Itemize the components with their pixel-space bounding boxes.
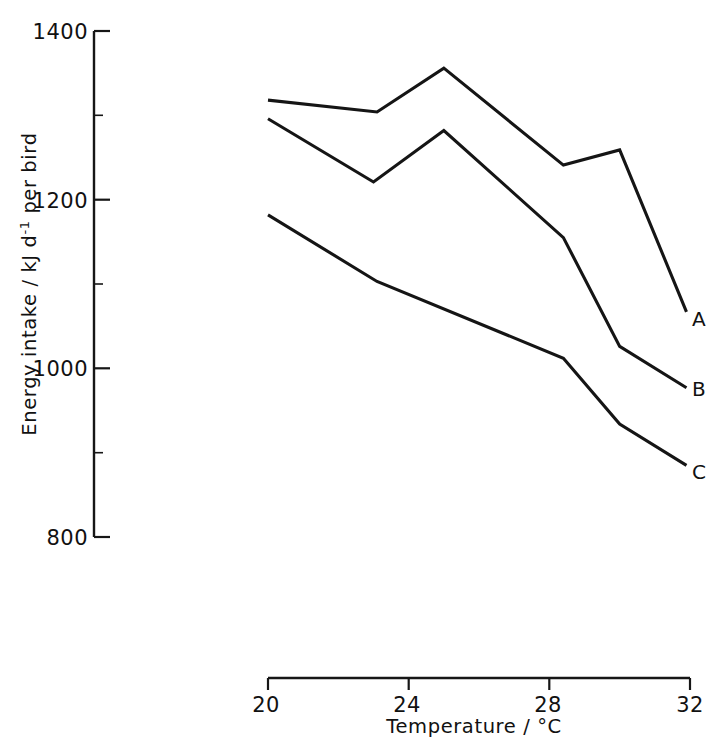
x-tick-label-20: 20	[252, 693, 280, 717]
svg-text:Energy intake / kJ d-1 per bir: Energy intake / kJ d-1 per bird	[17, 132, 41, 435]
y-axis-title-before: Energy intake / kJ d	[18, 235, 41, 436]
chart-figure: 1400 1200 1000 800 Energy intake / kJ d-…	[0, 0, 720, 737]
series-label-b: B	[692, 377, 706, 401]
y-axis: 1400 1200 1000 800	[33, 20, 110, 550]
line-chart-canvas: 1400 1200 1000 800 Energy intake / kJ d-…	[0, 0, 720, 737]
series-line-a	[268, 68, 686, 312]
series-label-a: A	[692, 307, 706, 331]
x-tick-label-32: 32	[676, 693, 704, 717]
series-line-c	[268, 215, 686, 465]
y-tick-label-1400: 1400	[33, 20, 88, 44]
y-axis-title-after: per bird	[18, 132, 41, 220]
x-tick-label-28: 28	[534, 693, 562, 717]
y-axis-title: Energy intake / kJ d-1 per bird	[17, 132, 41, 435]
x-axis-title: Temperature / °C	[385, 715, 561, 737]
y-axis-title-superscript: -1	[17, 220, 32, 234]
x-axis: 20 24 28 32 Temperature / °C	[252, 678, 704, 737]
x-tick-label-24: 24	[393, 693, 421, 717]
y-tick-label-800: 800	[46, 526, 88, 550]
series-label-c: C	[692, 460, 706, 484]
